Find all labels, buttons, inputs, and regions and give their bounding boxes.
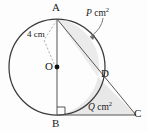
label-vertex-d: D [101,68,109,79]
label-center-o: O [45,61,53,72]
geometry-canvas [0,0,147,133]
region-q-exponent: 2 [109,100,112,107]
region-q-variable: Q [88,102,95,112]
label-region-p: P cm2 [86,7,109,19]
region-p-shading [57,19,99,77]
label-radius-measure: 4 cm [27,30,45,39]
geometry-figure: A B C D O 4 cm P cm2 Q cm2 [0,0,147,133]
center-dot [55,65,60,70]
region-q-unit: cm [97,102,109,112]
label-vertex-a: A [52,2,60,13]
region-p-exponent: 2 [106,6,109,13]
label-vertex-b: B [52,118,59,129]
label-vertex-c: C [134,108,141,119]
region-p-unit: cm [94,8,106,18]
label-region-q: Q cm2 [88,101,112,113]
